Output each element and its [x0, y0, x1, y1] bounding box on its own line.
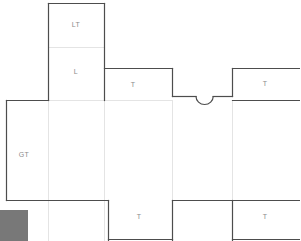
panel-label-lid-tuck: LT [72, 21, 80, 28]
panel-label-tab-mid-right: T [263, 80, 268, 87]
panel-label-tab-bottom-left: T [137, 213, 142, 220]
cut-line-group [7, 4, 301, 241]
dieline-canvas: LT L GT T T T T [0, 0, 300, 241]
panel-label-tab-mid-left: T [131, 81, 136, 88]
panel-label-tab-bottom-right: T [263, 213, 268, 220]
color-swatch [0, 210, 28, 241]
panel-label-lid: L [74, 68, 78, 75]
panel-label-glue-tab: GT [19, 151, 30, 158]
dieline-drawing [0, 0, 300, 241]
thumb-notch-arc [196, 97, 213, 105]
